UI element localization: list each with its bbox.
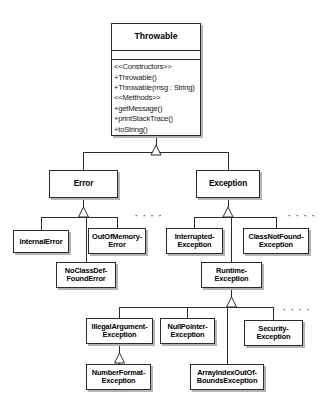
class-name-exception: Exception — [199, 180, 257, 189]
ellipsis-error-more-subclasses: · · · · — [135, 212, 163, 221]
uml-class-security-exception[interactable]: Security- Exception — [244, 320, 303, 346]
uml-class-throwable[interactable]: Throwable <<Constructors>> +Throwable() … — [111, 23, 201, 136]
uml-class-internal-error[interactable]: InternalError — [13, 230, 69, 253]
uml-class-array-index-out-of-bounds-exception[interactable]: ArrayIndexOutOf- BoundsException — [190, 364, 264, 390]
class-name-interrupted-exception: Interrupted- Exception — [169, 233, 220, 249]
uml-class-interrupted-exception[interactable]: Interrupted- Exception — [166, 228, 223, 254]
class-name-runtime-exception: Runtime- Exception — [204, 267, 259, 283]
attributes-compartment — [112, 51, 200, 60]
class-name-internal-error: InternalError — [16, 238, 66, 246]
ellipsis-exception-more-subclasses: · · · · — [288, 212, 316, 221]
class-name-no-class-def-found-error: NoClassDef- FoundError — [59, 267, 113, 283]
uml-class-exception[interactable]: Exception — [196, 170, 260, 198]
operation-to-string: +toString() — [114, 125, 198, 135]
class-name-array-index-out-of-bounds-exception: ArrayIndexOutOf- BoundsException — [193, 369, 261, 385]
uml-class-illegal-argument-exception[interactable]: IllegalArgument- Exception — [86, 318, 153, 344]
uml-class-number-format-exception[interactable]: NumberFormat- Exception — [86, 364, 151, 390]
operation-constructors-stereotype: <<Constructors>> — [114, 62, 198, 72]
operation-throwable-noarg: +Throwable() — [114, 73, 198, 83]
class-name-number-format-exception: NumberFormat- Exception — [89, 369, 148, 385]
operation-throwable-msg: +Throwable(msg : String) — [114, 83, 198, 93]
uml-class-out-of-memory-error[interactable]: OutOfMemory- Error — [88, 228, 146, 254]
class-name-throwable: Throwable — [112, 24, 200, 51]
class-name-illegal-argument-exception: IllegalArgument- Exception — [89, 323, 150, 339]
operation-get-message: +getMessage() — [114, 104, 198, 114]
class-name-class-not-found-exception: ClassNotFound- Exception — [246, 233, 306, 249]
class-name-null-pointer-exception: NullPointer- Exception — [163, 323, 212, 339]
class-name-security-exception: Security- Exception — [247, 325, 300, 341]
operations-compartment: <<Constructors>> +Throwable() +Throwable… — [112, 60, 200, 135]
class-name-out-of-memory-error: OutOfMemory- Error — [91, 233, 143, 249]
ellipsis-runtime-exception-more-subclasses: · · · · — [283, 306, 311, 315]
uml-class-null-pointer-exception[interactable]: NullPointer- Exception — [160, 318, 215, 344]
uml-class-runtime-exception[interactable]: Runtime- Exception — [201, 262, 262, 288]
operation-print-stack-trace: +printStackTrace() — [114, 114, 198, 124]
operation-methods-stereotype: <<Metthods>> — [114, 93, 198, 103]
uml-class-class-not-found-exception[interactable]: ClassNotFound- Exception — [243, 228, 309, 254]
uml-class-error[interactable]: Error — [49, 170, 118, 198]
uml-class-no-class-def-found-error[interactable]: NoClassDef- FoundError — [56, 262, 116, 288]
uml-class-diagram: Throwable <<Constructors>> +Throwable() … — [0, 0, 329, 412]
class-name-error: Error — [52, 180, 115, 189]
